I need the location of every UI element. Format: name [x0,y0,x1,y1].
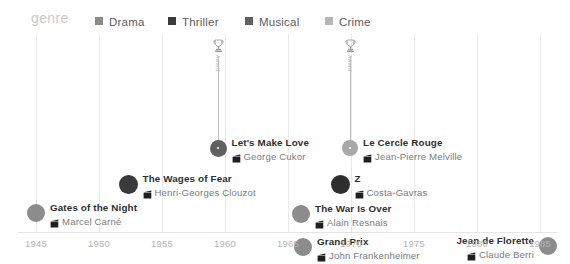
data-point[interactable] [27,204,45,222]
clapperboard-icon [315,217,324,226]
clapperboard-icon [143,187,152,196]
x-tick-label: 1970 [340,238,362,249]
point-label[interactable]: Let's Make LoveGeorge Cukor [232,137,310,162]
director-row: Marcel Carné [50,214,137,227]
legend-swatch-icon [325,17,333,25]
legend-item-drama[interactable]: Drama [95,12,145,26]
data-point[interactable] [292,205,310,223]
director-row: George Cukor [232,149,310,162]
legend-item-label: Drama [109,16,145,28]
gridline [477,34,478,232]
data-point[interactable] [331,175,350,194]
director-name: Costa-Gavras [367,186,428,199]
award-label: Award [215,55,221,71]
x-tick-label: 1945 [25,238,47,249]
legend-item-label: Musical [259,16,299,28]
data-point-center [349,147,351,149]
legend: genre DramaThrillerMusicalCrime [0,0,570,34]
x-tick-label: 1980 [466,238,488,249]
legend-swatch-icon [168,17,176,25]
legend-item-label: Crime [339,16,371,28]
film-title: The Wages of Fear [143,173,256,185]
x-tick-label: 1965 [277,238,299,249]
legend-item-thriller[interactable]: Thriller [168,12,219,26]
legend-item-musical[interactable]: Musical [245,12,299,26]
gridline [414,34,415,232]
x-axis-line [18,232,558,233]
director-name: Jean-Pierre Melville [375,150,462,163]
x-tick-label: 1955 [151,238,173,249]
legend-item-crime[interactable]: Crime [325,12,371,26]
x-tick-label: 1985 [529,238,551,249]
clapperboard-icon [355,187,364,196]
legend-item-label: Thriller [182,16,219,28]
x-tick-label: 1950 [88,238,110,249]
film-title: Z [355,173,428,185]
clapperboard-icon [232,151,241,160]
x-axis-ticks: 194519501955196019651970197519801985 [0,234,570,264]
point-label[interactable]: Le Cercle RougeJean-Pierre Melville [363,137,462,162]
trophy-icon [212,38,225,54]
award-label: Award [347,55,353,71]
point-label[interactable]: The War Is OverAlain Resnais [315,203,391,228]
director-row: Costa-Gavras [355,185,428,198]
legend-swatch-icon [95,17,103,25]
gridline [225,34,226,232]
point-label[interactable]: Gates of the NightMarcel Carné [50,202,137,227]
clapperboard-icon [363,151,372,160]
x-tick-label: 1975 [403,238,425,249]
gridline [540,34,541,232]
film-title: Le Cercle Rouge [363,137,462,149]
point-label[interactable]: ZCosta-Gavras [355,173,428,198]
plot-area: AwardAward Gates of the NightMarcel Carn… [0,34,570,234]
director-name: George Cukor [244,150,306,163]
gridline [288,34,289,232]
legend-title: genre [31,10,69,26]
film-title: The War Is Over [315,203,391,215]
director-name: Henri-Georges Clouzot [155,186,256,199]
clapperboard-icon [50,216,59,225]
data-point[interactable] [119,175,138,194]
gridline [162,34,163,232]
director-row: Henri-Georges Clouzot [143,185,256,198]
director-row: Jean-Pierre Melville [363,149,462,162]
legend-swatch-icon [245,17,253,25]
gridline [36,34,37,232]
director-row: Alain Resnais [315,215,391,228]
film-title: Gates of the Night [50,202,137,214]
timeline-chart: genre DramaThrillerMusicalCrime AwardAwa… [0,0,570,264]
film-title: Let's Make Love [232,137,310,149]
director-name: Marcel Carné [62,215,121,228]
trophy-icon [344,38,357,54]
director-name: Alain Resnais [327,216,388,229]
x-tick-label: 1960 [214,238,236,249]
data-point-center [217,147,219,149]
point-label[interactable]: The Wages of FearHenri-Georges Clouzot [143,173,256,198]
